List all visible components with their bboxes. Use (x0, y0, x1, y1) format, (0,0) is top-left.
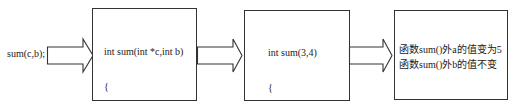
code-line: int sum(3,4) (268, 47, 320, 59)
substituted-call-box: int sum(3,4) { *c=3+1; b=4+1; return 0; … (244, 10, 350, 101)
code-line: int sum(int *c,int b) (104, 46, 183, 58)
call-expression-label: sum(c,b); (7, 48, 45, 59)
code-line: { (104, 81, 183, 93)
result-line: 函数sum()外a的值变为5 (399, 42, 502, 57)
block-arrow-right-icon (197, 38, 245, 74)
block-arrow-right-icon (349, 38, 397, 74)
function-definition-box: int sum(int *c,int b) { *c=*c+1; b=b+1; … (92, 8, 197, 101)
block-arrow-right-icon (47, 38, 95, 74)
code-line: { (268, 82, 320, 94)
result-line: 函数sum()外b的值不变 (399, 57, 502, 72)
result-box: 函数sum()外a的值变为5 函数sum()外b的值不变 (394, 10, 508, 100)
